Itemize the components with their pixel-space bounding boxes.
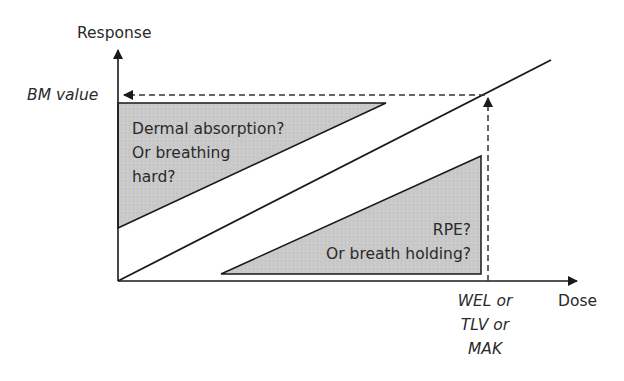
limit-label-line-1: WEL or (458, 292, 514, 310)
upper-region-text-2: Or breathing (132, 144, 230, 162)
lower-region-text-2: Or breath holding? (326, 245, 471, 263)
limit-label-line-2: TLV or (461, 316, 511, 334)
bm-value-label: BM value (27, 86, 98, 104)
dose-response-diagram: Response Dose BM value WEL or TLV or MAK… (0, 0, 624, 381)
lower-region-text-1: RPE? (433, 221, 471, 239)
y-axis-label: Response (77, 24, 151, 42)
upper-region-text-1: Dermal absorption? (132, 120, 284, 138)
upper-region-text-3: hard? (132, 168, 176, 186)
x-axis-label: Dose (558, 292, 597, 310)
limit-label-line-3: MAK (468, 340, 504, 358)
